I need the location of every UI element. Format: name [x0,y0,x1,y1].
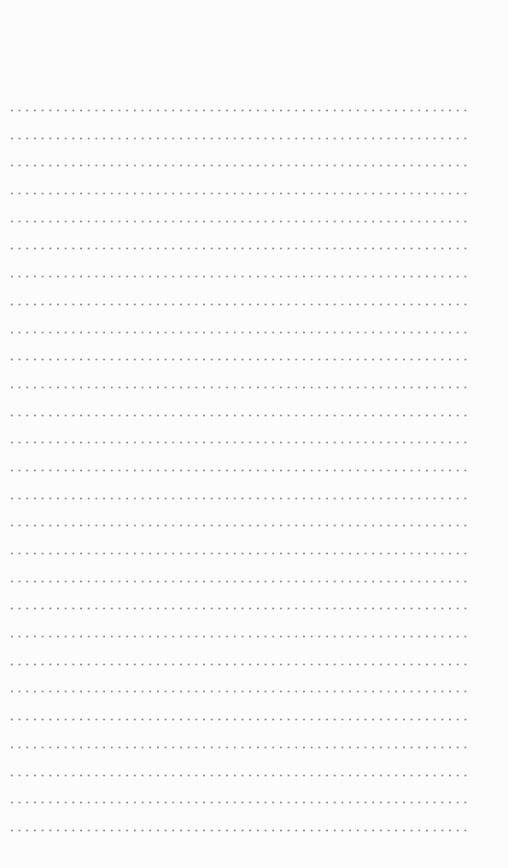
dotted-line [8,469,470,472]
dotted-line [8,663,470,666]
dotted-line [8,690,470,693]
dotted-line [8,746,470,749]
dotted-line [8,441,470,444]
dotted-line [8,137,470,140]
ruled-lines [8,109,470,857]
dotted-line [8,801,470,804]
dotted-line [8,358,470,361]
dotted-line [8,303,470,306]
dotted-line [8,524,470,527]
dotted-line [8,109,470,112]
dotted-line [8,386,470,389]
dotted-line [8,247,470,250]
dotted-line [8,164,470,167]
dotted-line [8,774,470,777]
notepaper-page [0,0,508,868]
dotted-line [8,192,470,195]
dotted-line [8,331,470,334]
dotted-line [8,607,470,610]
dotted-line [8,718,470,721]
dotted-line [8,275,470,278]
dotted-line [8,580,470,583]
dotted-line [8,220,470,223]
dotted-line [8,829,470,832]
dotted-line [8,414,470,417]
dotted-line [8,552,470,555]
dotted-line [8,497,470,500]
dotted-line [8,635,470,638]
